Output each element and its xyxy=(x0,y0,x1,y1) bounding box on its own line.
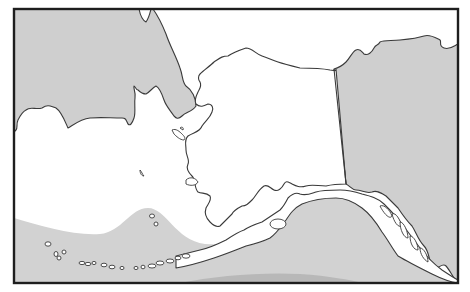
st-lawrence-island xyxy=(172,129,185,140)
alaska-map xyxy=(0,0,470,292)
kodiak-island xyxy=(270,219,286,229)
pribilof-island-1 xyxy=(150,214,155,218)
st-matthew-island xyxy=(140,170,144,176)
russia-land xyxy=(14,9,196,132)
pribilof-island-2 xyxy=(154,222,158,226)
big-diomede-island xyxy=(180,127,183,130)
